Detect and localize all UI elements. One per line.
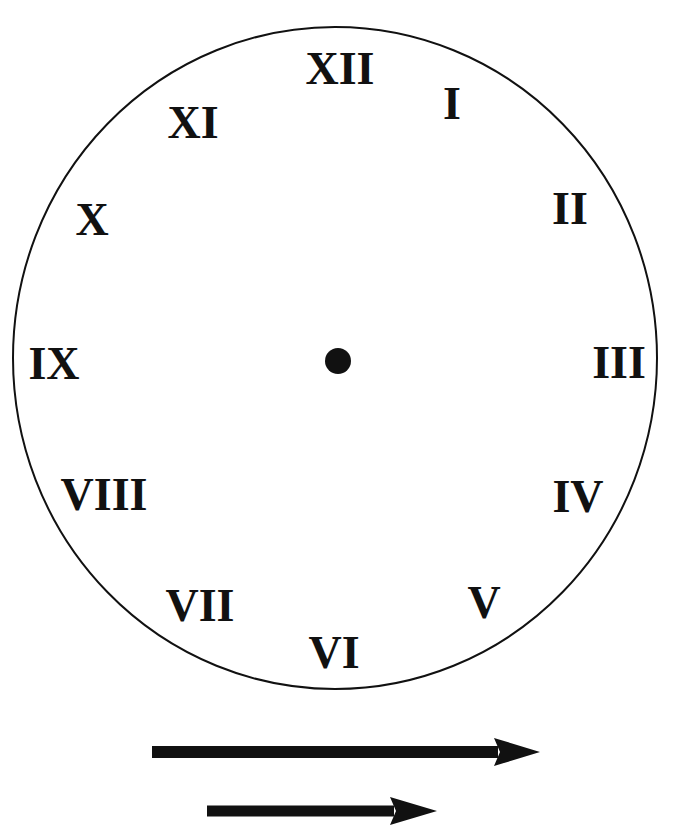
numeral-xi: XI <box>167 97 218 148</box>
hour-hand-shaft <box>207 806 394 817</box>
numeral-v: V <box>467 577 500 628</box>
numeral-iv: IV <box>552 471 603 522</box>
center-pivot-dot <box>325 348 351 374</box>
numeral-vi: VI <box>308 627 359 678</box>
clock-diagram: XIIIIIIIIIVVVIVIIVIIIIXXXI <box>0 0 673 838</box>
numeral-viii: VIII <box>61 469 148 520</box>
numeral-i: I <box>443 78 461 129</box>
numeral-xii: XII <box>305 43 374 94</box>
numeral-vii: VII <box>165 580 234 631</box>
numeral-x: X <box>75 194 108 245</box>
numeral-ix: IX <box>28 338 79 389</box>
numeral-ii: II <box>552 183 588 234</box>
minute-hand-shaft <box>152 746 498 758</box>
background <box>0 0 673 838</box>
numeral-iii: III <box>592 337 646 388</box>
